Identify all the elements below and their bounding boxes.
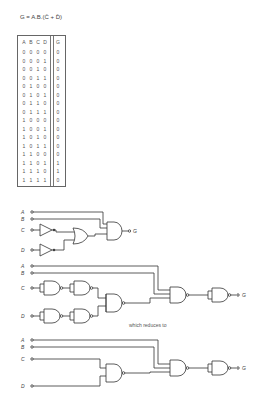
transition-caption: which reduces to	[129, 322, 167, 328]
svg-text:G: G	[242, 365, 246, 371]
output-label-g: G	[133, 228, 137, 234]
circuit-reduced: A B C D G	[20, 337, 246, 389]
input-label-a: A	[20, 209, 25, 215]
svg-text:C: C	[21, 285, 25, 291]
circuit-nand: A B C D G	[20, 263, 246, 323]
circuit-original: A B C D G	[20, 209, 137, 256]
input-label-b: B	[21, 216, 25, 222]
svg-text:A: A	[20, 337, 25, 343]
svg-text:D: D	[21, 313, 25, 319]
svg-text:C: C	[21, 356, 25, 362]
svg-text:G: G	[242, 292, 246, 298]
logic-circuits: A B C D G A B C D	[0, 0, 265, 401]
svg-text:B: B	[21, 270, 25, 276]
svg-text:A: A	[20, 263, 25, 269]
svg-text:B: B	[21, 344, 25, 350]
input-label-d: D	[21, 247, 25, 253]
svg-text:D: D	[21, 383, 25, 389]
input-label-c: C	[21, 227, 25, 233]
